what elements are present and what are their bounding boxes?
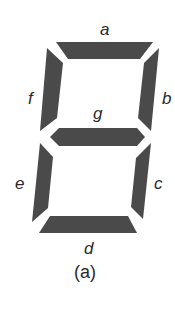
- segment-e: [32, 143, 53, 222]
- segment-a: [56, 42, 153, 59]
- segment-g: [50, 128, 145, 146]
- segment-c: [131, 143, 151, 219]
- label-e: e: [15, 174, 24, 193]
- label-a: a: [100, 20, 109, 39]
- figure-caption: (a): [74, 262, 96, 282]
- label-c: c: [154, 174, 163, 193]
- label-g: g: [93, 104, 103, 123]
- segment-d: [39, 216, 137, 233]
- segment-f: [40, 48, 63, 131]
- label-f: f: [28, 89, 35, 108]
- seven-segment-diagram: a b c d e f g (a): [0, 0, 175, 312]
- segment-b: [138, 48, 159, 131]
- label-b: b: [162, 89, 171, 108]
- label-d: d: [84, 239, 94, 258]
